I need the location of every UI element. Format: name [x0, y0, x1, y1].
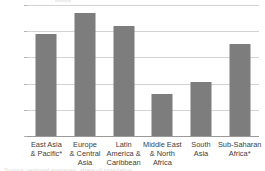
- x-axis-label-line: Asia: [179, 149, 223, 158]
- bar[interactable]: [229, 44, 250, 136]
- bar[interactable]: [113, 26, 134, 136]
- x-axis-label-line: Middle East: [140, 140, 184, 149]
- x-axis-label-line: Sub-Saharan: [218, 140, 262, 149]
- plot-area: 01020304050: [27, 5, 259, 136]
- x-axis-label: Middle East& NorthAfrica: [140, 140, 184, 168]
- bar-slot: [182, 5, 221, 136]
- bar-slot: [66, 5, 105, 136]
- bar[interactable]: [74, 13, 95, 136]
- cropped-bottom-caption: Source: regional averages, share of popu…: [4, 167, 262, 171]
- x-axis-label-line: & Pacific*: [24, 149, 68, 158]
- x-axis-label: Sub-SaharanAfrica*: [218, 140, 262, 158]
- bar-slot: [27, 5, 66, 136]
- x-axis-label-line: & North: [140, 149, 184, 158]
- bar-slot: [220, 5, 259, 136]
- x-axis-label-line: Latin: [102, 140, 146, 149]
- x-axis-label-line: Europe: [63, 140, 107, 149]
- y-tick-mark-0: [24, 136, 27, 137]
- x-axis-label-line: South: [179, 140, 223, 149]
- x-axis-label-line: Africa*: [218, 149, 262, 158]
- x-axis-label-line: & Central: [63, 149, 107, 158]
- bar[interactable]: [190, 82, 211, 136]
- bar-slot: [143, 5, 182, 136]
- x-axis-label: East Asia& Pacific*: [24, 140, 68, 158]
- x-axis-label: SouthAsia: [179, 140, 223, 158]
- bar-chart: 01020304050 East Asia& Pacific*Europe& C…: [0, 0, 265, 171]
- gridline-0: [27, 136, 259, 137]
- bars-group: [27, 5, 259, 136]
- x-axis-label-line: America &: [102, 149, 146, 158]
- x-axis-label: Europe& CentralAsia: [63, 140, 107, 168]
- x-axis-label: LatinAmerica &Caribbean: [102, 140, 146, 168]
- x-axis-label-line: East Asia: [24, 140, 68, 149]
- bar[interactable]: [36, 34, 57, 136]
- bar[interactable]: [152, 94, 173, 136]
- cropped-top-element: [55, 0, 71, 2]
- bar-slot: [104, 5, 143, 136]
